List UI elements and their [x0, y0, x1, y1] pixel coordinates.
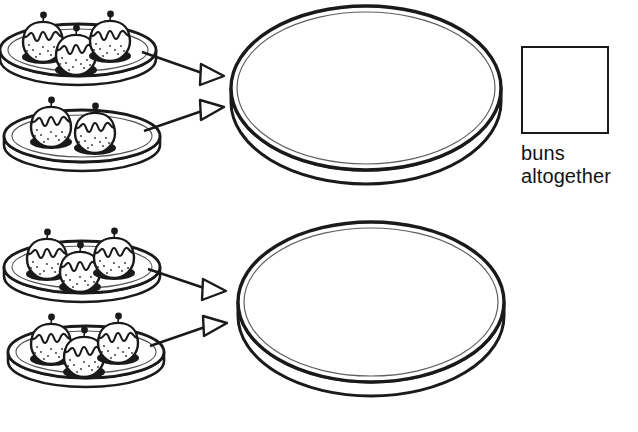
answer-label-1: buns altogether — [521, 142, 638, 188]
arrow-1a — [142, 52, 224, 85]
arrow-2b — [150, 316, 227, 346]
target-plate-2 — [238, 222, 504, 396]
source-plate-1a — [0, 11, 156, 85]
source-plate-2a — [4, 228, 160, 302]
worksheet: buns altogether — [0, 0, 638, 432]
answer-label-1-line-2: altogether — [521, 165, 638, 188]
problem-row-2: buns altogether — [0, 216, 638, 432]
arrow-2a — [148, 269, 226, 300]
problem-row-1: buns altogether — [0, 0, 638, 216]
target-plate-1 — [231, 6, 501, 184]
answer-group-1: buns altogether — [521, 46, 638, 188]
source-plate-2b — [8, 313, 164, 387]
arrow-1b — [144, 100, 224, 131]
source-plate-1b — [4, 97, 160, 171]
answer-label-1-line-1: buns — [521, 142, 638, 165]
problem-2-illustration — [0, 216, 638, 432]
answer-box-1[interactable] — [521, 46, 609, 134]
